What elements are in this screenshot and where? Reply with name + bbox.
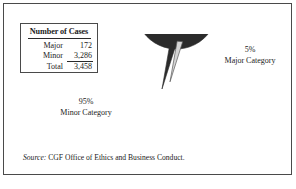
figure-frame: Number of Cases Major 172 Minor 3,286 To… (3, 3, 292, 175)
label-minor-text: Minor Category (42, 107, 130, 118)
label-major-text: Major Category (210, 55, 290, 66)
label-major-category: 5% Major Category (210, 44, 290, 66)
figure-container: Number of Cases Major 172 Minor 3,286 To… (0, 0, 296, 189)
source-label: Source: (23, 153, 46, 162)
table-row-total: Total 3,458 (21, 61, 97, 72)
table-title-underline (28, 38, 91, 39)
table-row: Minor 3,286 (21, 50, 97, 61)
source-text: CGF Office of Ethics and Business Conduc… (48, 153, 184, 162)
pie-chart (112, 34, 220, 144)
table-title: Number of Cases (21, 27, 97, 37)
label-major-pct: 5% (210, 44, 290, 55)
table-row-value: 3,458 (74, 61, 92, 72)
label-minor-pct: 95% (42, 96, 130, 107)
number-of-cases-table: Number of Cases Major 172 Minor 3,286 To… (20, 23, 98, 73)
source-note: Source: CGF Office of Ethics and Busines… (23, 152, 185, 163)
label-minor-category: 95% Minor Category (42, 96, 130, 118)
table-row-label: Minor (21, 50, 65, 61)
table-row-label: Total (21, 61, 65, 72)
table-row-value: 3,286 (74, 50, 92, 61)
